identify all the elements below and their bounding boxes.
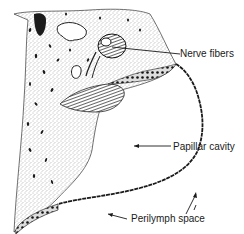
label-nerve-fibers: Nerve fibers [180,48,234,59]
perilymph-arrowhead-up [193,192,197,198]
perilymph-leader-right [194,205,196,210]
label-perilymph-space: Perilymph space [131,213,205,224]
papilla-diagram [0,0,244,234]
perilymph-arrowhead-left [108,213,113,217]
tissue-mass [14,9,176,232]
vessel-lumen-lower [72,66,82,79]
papillar-cavity-arrowhead [134,144,139,148]
label-papillar-cavity: Papillar cavity [173,141,235,152]
